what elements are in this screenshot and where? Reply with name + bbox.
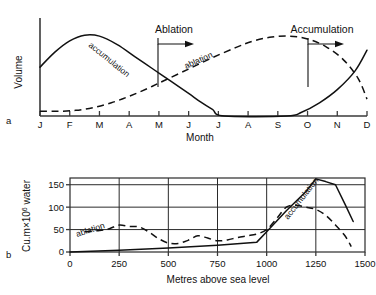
panel-a-x-tick-label-J: J — [38, 119, 43, 130]
panel-a-ablation-inline-label: ablation — [183, 49, 215, 70]
panel-a-accumulation-annotation: Accumulation — [290, 23, 353, 87]
panel-b-x-tick-label-0: 0 — [67, 258, 72, 269]
panel-b-y-tick-labels: 050100150 — [48, 179, 64, 257]
panel-a-letter: a — [6, 115, 12, 126]
panel-a-x-tick-label-M: M — [95, 119, 103, 130]
panel-b-y-axis-title: Cu.m×106 water — [21, 179, 33, 252]
panel-b-y-axis-title-main: Cu.m×10 — [21, 211, 32, 252]
panel-b-x-tick-label-750: 750 — [210, 258, 226, 269]
panel-b-accumulation-inline-label: accumulation — [282, 175, 321, 221]
ablation-annotation-arrowhead — [185, 41, 194, 47]
panel-b-letter: b — [6, 249, 11, 260]
panel-b-x-tick-label-1000: 1000 — [256, 258, 277, 269]
panel-a-x-tick-label-O: O — [304, 119, 311, 130]
accumulation-annotation-bracket — [308, 38, 337, 44]
panel-a-ablation-annotation: Ablation — [155, 23, 194, 87]
panel-a-accumulation-inline-label: accumulation — [87, 40, 132, 79]
panel-b-y-tick-label-50: 50 — [53, 224, 64, 235]
panel-b-x-axis-title: Metres above sea level — [167, 274, 270, 285]
panel-a-x-tick-label-A: A — [126, 119, 133, 130]
panel-a-x-tick-label-S: S — [275, 119, 281, 130]
panel-b-y-tick-label-150: 150 — [48, 179, 64, 190]
panel-b-x-tick-labels: 0250500750100012501500 — [67, 258, 375, 269]
panel-a-y-axis-title: Volume — [13, 55, 24, 89]
accumulation-annotation-label: Accumulation — [290, 23, 353, 35]
panel-a: a Volume JFMAMJJASOND accumulation ablat… — [6, 18, 371, 143]
figure-svg: a Volume JFMAMJJASOND accumulation ablat… — [0, 0, 376, 295]
panel-b-x-tick-label-250: 250 — [111, 258, 127, 269]
panel-b-x-tick-label-1500: 1500 — [354, 258, 375, 269]
accumulation-annotation-arrowhead — [335, 41, 344, 47]
panel-b: b Cu.m×106 water 050100150 0250500750100… — [6, 175, 376, 285]
panel-b-x-ticks — [70, 252, 365, 256]
panel-a-x-tick-label-J: J — [216, 119, 221, 130]
panel-a-x-tick-label-M: M — [155, 119, 163, 130]
panel-b-y-tick-label-100: 100 — [48, 202, 64, 213]
panel-a-x-tick-labels: JFMAMJJASOND — [38, 119, 371, 130]
panel-b-y-tick-label-0: 0 — [59, 246, 64, 257]
panel-a-x-tick-label-N: N — [334, 119, 341, 130]
ablation-annotation-bracket — [158, 38, 187, 44]
panel-a-x-tick-label-D: D — [364, 119, 371, 130]
svg-text:Cu.m×106 water: Cu.m×106 water — [21, 179, 33, 252]
panel-b-x-tick-label-500: 500 — [160, 258, 176, 269]
panel-a-x-axis-title: Month — [186, 132, 214, 143]
panel-a-x-tick-label-F: F — [67, 119, 73, 130]
panel-b-x-tick-label-1250: 1250 — [305, 258, 326, 269]
panel-a-x-tick-label-J: J — [186, 119, 191, 130]
glacier-mass-balance-figure: a Volume JFMAMJJASOND accumulation ablat… — [0, 0, 376, 295]
panel-b-y-axis-title-tail: water — [21, 179, 32, 207]
panel-b-ablation-inline-label: ablation — [75, 220, 107, 239]
ablation-annotation-label: Ablation — [155, 23, 193, 35]
panel-a-x-tick-label-A: A — [245, 119, 252, 130]
